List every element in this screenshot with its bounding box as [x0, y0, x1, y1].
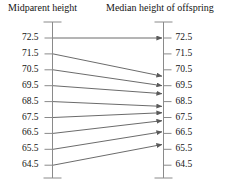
arrow-lines-group: [53, 38, 162, 165]
right-tick-label-69-5: 69.5: [176, 80, 210, 90]
arrow-65-5-to-66-6: [53, 132, 162, 149]
left-tick-label-66-5: 66.5: [5, 127, 39, 137]
arrow-68-5-to-68-2: [53, 102, 162, 107]
arrow-69-5-to-69: [53, 86, 162, 94]
arrow-67-5-to-67-8: [53, 113, 162, 118]
left-tick-label-65-5: 65.5: [5, 143, 39, 153]
arrow-64-5-to-65-8: [53, 145, 162, 166]
right-tick-label-70-5: 70.5: [176, 64, 210, 74]
left-tick-label-70-5: 70.5: [5, 64, 39, 74]
arrow-66-5-to-67-3: [53, 121, 162, 134]
right-tick-label-67-5: 67.5: [176, 112, 210, 122]
right-tick-label-64-5: 64.5: [176, 159, 210, 169]
left-tick-label-69-5: 69.5: [5, 80, 39, 90]
right-tick-label-66-5: 66.5: [176, 127, 210, 137]
right-tick-label-68-5: 68.5: [176, 96, 210, 106]
right-tick-label-72-5: 72.5: [176, 32, 210, 42]
galton-regression-figure: Midparent height Median height of offspr…: [0, 0, 229, 190]
right-tick-label-65-5: 65.5: [176, 143, 210, 153]
arrow-71-5-to-70-1: [53, 54, 162, 76]
left-tick-label-72-5: 72.5: [5, 32, 39, 42]
right-tick-label-71-5: 71.5: [176, 48, 210, 58]
left-tick-label-67-5: 67.5: [5, 112, 39, 122]
left-tick-label-68-5: 68.5: [5, 96, 39, 106]
arrow-70-5-to-69-5: [53, 70, 162, 86]
left-tick-label-71-5: 71.5: [5, 48, 39, 58]
left-tick-label-64-5: 64.5: [5, 159, 39, 169]
